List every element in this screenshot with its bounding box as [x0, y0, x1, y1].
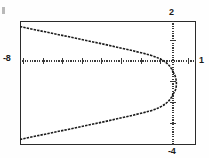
screenshot-root: -8 1 2 -4 [0, 0, 209, 158]
curve-lower-branch [20, 94, 173, 139]
plot-canvas [20, 21, 196, 145]
y-min-label: -4 [168, 147, 175, 156]
curve-upper-branch [20, 27, 173, 72]
x-max-label: 1 [199, 56, 204, 65]
x-min-label: -8 [3, 54, 10, 63]
y-max-label: 2 [169, 8, 174, 17]
scan-artifact [2, 7, 5, 14]
